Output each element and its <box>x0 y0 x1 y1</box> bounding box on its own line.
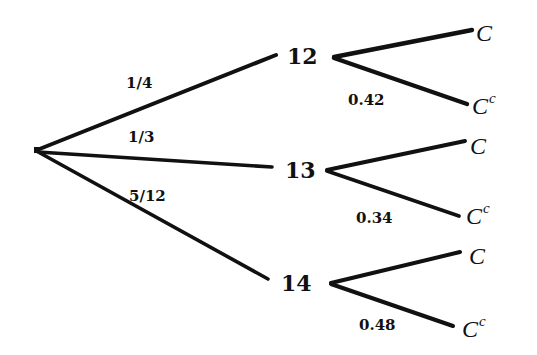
leaf-13-Cc: Cc <box>466 204 490 228</box>
prob-label-12: 1/4 <box>126 76 152 91</box>
prob-label-13-Cc: 0.34 <box>356 211 393 226</box>
node-13: 13 <box>285 159 316 181</box>
root-node <box>34 147 40 153</box>
node-14: 14 <box>281 272 312 294</box>
leaf-13-C: C <box>470 134 486 158</box>
complement-superscript: c <box>483 200 490 216</box>
prob-label-14: 5/12 <box>129 189 166 204</box>
probability-tree-diagram: 1/4 1/3 5/12 12 13 14 0.42 0.34 0.48 C C… <box>0 0 537 355</box>
complement-superscript: c <box>479 313 486 329</box>
leaf-12-C: C <box>476 21 492 45</box>
leaf-14-C: C <box>469 244 485 268</box>
prob-label-13: 1/3 <box>128 130 154 145</box>
edge-13-to-Cc <box>327 171 459 216</box>
tree-edges <box>0 0 537 355</box>
prob-label-12-Cc: 0.42 <box>348 93 385 108</box>
leaf-14-Cc: Cc <box>462 317 486 341</box>
prob-label-14-Cc: 0.48 <box>359 318 396 333</box>
leaf-12-Cc: Cc <box>472 94 496 118</box>
edge-root-to-14 <box>40 153 268 279</box>
edge-root-to-13 <box>38 152 272 167</box>
edge-root-to-12 <box>37 55 276 150</box>
edge-12-to-C <box>334 30 472 57</box>
edge-14-to-C <box>331 252 460 283</box>
node-12: 12 <box>287 45 318 67</box>
complement-superscript: c <box>489 90 496 106</box>
edge-13-to-C <box>327 141 465 170</box>
